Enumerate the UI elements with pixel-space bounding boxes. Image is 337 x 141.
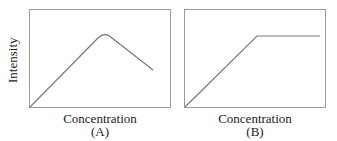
y-axis-label: Intensity	[5, 33, 21, 83]
chart-a-curve	[30, 35, 153, 108]
chart-b-panel-label: (B)	[195, 125, 315, 139]
chart-b-frame	[185, 10, 326, 108]
chart-a-panel-label: (A)	[40, 125, 160, 139]
chart-b-curve	[185, 36, 320, 107]
chart-a-frame	[30, 10, 171, 108]
